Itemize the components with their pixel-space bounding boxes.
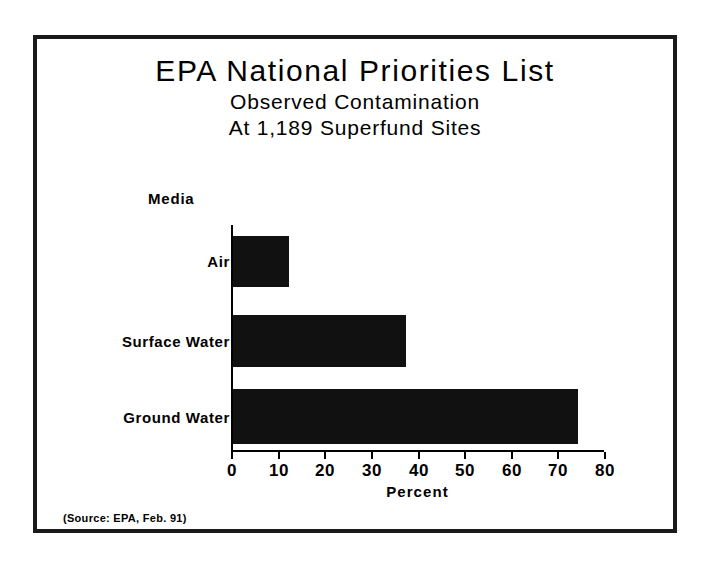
category-label-ground-water: Ground Water <box>123 410 230 425</box>
x-tick-label-50: 50 <box>445 461 485 481</box>
x-tick-label-60: 60 <box>492 461 532 481</box>
x-tick-label-80: 80 <box>585 461 625 481</box>
chart-subtitle-line-1: Observed Contamination <box>37 89 673 115</box>
bar-ground-water: Ground Water <box>233 389 578 444</box>
x-tick-20 <box>324 452 326 459</box>
bar-air: Air <box>233 236 289 287</box>
title-block: EPA National Priorities List Observed Co… <box>37 53 673 141</box>
chart-title: EPA National Priorities List <box>37 53 673 89</box>
x-tick-40 <box>418 452 420 459</box>
x-tick-label-70: 70 <box>538 461 578 481</box>
source-note: (Source: EPA, Feb. 91) <box>63 512 187 524</box>
x-axis-title: Percent <box>231 483 604 500</box>
x-tick-label-10: 10 <box>259 461 299 481</box>
y-axis-title: Media <box>148 190 195 207</box>
figure-border: EPA National Priorities List Observed Co… <box>33 35 677 533</box>
chart-subtitle-line-2: At 1,189 Superfund Sites <box>37 115 673 141</box>
category-label-surface-water: Surface Water <box>122 334 230 349</box>
x-tick-10 <box>278 452 280 459</box>
bar-surface-water: Surface Water <box>233 315 406 367</box>
x-tick-label-30: 30 <box>352 461 392 481</box>
chart-figure: EPA National Priorities List Observed Co… <box>0 0 704 569</box>
x-tick-label-0: 0 <box>212 461 252 481</box>
x-tick-30 <box>371 452 373 459</box>
x-tick-50 <box>464 452 466 459</box>
x-tick-60 <box>511 452 513 459</box>
x-tick-80 <box>604 452 606 459</box>
plot-area: Air Surface Water Ground Water 0 10 20 3… <box>231 225 604 452</box>
category-label-air: Air <box>207 254 230 269</box>
x-tick-0 <box>231 452 233 459</box>
x-tick-label-40: 40 <box>399 461 439 481</box>
x-tick-label-20: 20 <box>305 461 345 481</box>
x-tick-70 <box>557 452 559 459</box>
